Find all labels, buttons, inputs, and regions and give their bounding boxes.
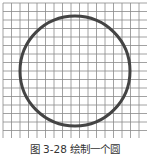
- circle-on-grid-figure: [0, 0, 150, 140]
- figure-caption: 图 3-28 绘制一个圆: [0, 140, 150, 159]
- grid: [3, 3, 147, 138]
